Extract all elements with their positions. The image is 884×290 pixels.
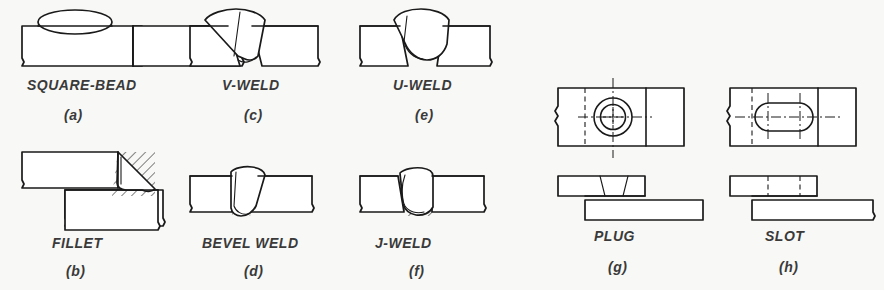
label-bevel-weld-letter: (d) (244, 263, 263, 279)
diagram-fillet: FILLET (b) (22, 145, 165, 279)
welded-joints-figure: SQUARE-BEAD (a) V-WELD (c) U-WELD (e) (0, 0, 884, 290)
diagram-slot: SLOT (h) (727, 88, 875, 275)
label-fillet-letter: (b) (66, 263, 85, 279)
label-plug-name: PLUG (594, 228, 635, 244)
label-slot-letter: (h) (779, 259, 798, 275)
label-bevel-weld-name: BEVEL WELD (202, 235, 299, 251)
diagram-plug: PLUG (g) (555, 78, 703, 275)
label-v-weld-name: V-WELD (222, 77, 280, 93)
label-square-bead-name: SQUARE-BEAD (27, 77, 137, 93)
label-plug-letter: (g) (608, 259, 627, 275)
diagram-bevel-weld: BEVEL WELD (d) (190, 165, 314, 279)
diagram-u-weld: U-WELD (e) (360, 0, 492, 123)
label-square-bead-letter: (a) (64, 107, 83, 123)
label-u-weld-letter: (e) (415, 107, 434, 123)
diagram-j-weld: J-WELD (f) (360, 165, 486, 279)
label-j-weld-name: J-WELD (375, 235, 432, 251)
label-v-weld-letter: (c) (244, 107, 263, 123)
label-fillet-name: FILLET (52, 235, 103, 251)
label-slot-name: SLOT (765, 228, 805, 244)
label-u-weld-name: U-WELD (393, 77, 452, 93)
diagram-v-weld: V-WELD (c) (190, 0, 320, 123)
label-j-weld-letter: (f) (409, 263, 425, 279)
